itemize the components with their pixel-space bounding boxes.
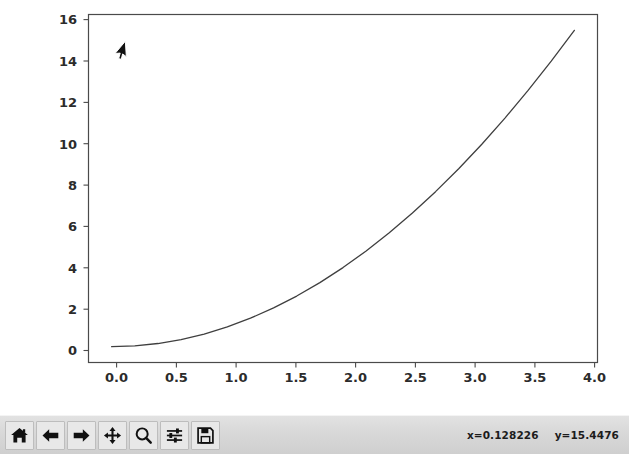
save-button[interactable] [191, 421, 220, 450]
floppy-disk-icon [196, 426, 215, 445]
home-icon [10, 426, 29, 445]
y-tick-label: 12 [59, 95, 77, 110]
y-tick-label: 6 [68, 219, 77, 234]
coordinate-x-value: x=0.128226 [467, 429, 539, 441]
x-tick-label: 1.0 [225, 370, 248, 385]
y-tick-label: 4 [68, 261, 77, 276]
y-tick-label: 8 [68, 178, 77, 193]
y-tick-label: 2 [68, 302, 77, 317]
y-tick-label: 0 [68, 343, 77, 358]
y-axis-ticks [84, 20, 89, 351]
coordinate-y-value: y=15.4476 [555, 429, 619, 441]
back-button[interactable] [36, 421, 65, 450]
x-tick-label: 2.0 [344, 370, 367, 385]
x-tick-label: 1.5 [284, 370, 307, 385]
y-tick-label: 10 [59, 137, 77, 152]
x-tick-label: 3.0 [464, 370, 487, 385]
figure-canvas[interactable]: 0.0 0.5 1.0 1.5 2.0 2.5 3.0 3.5 4.0 0 2 [0, 0, 629, 412]
y-tick-labels: 0 2 4 6 8 10 12 14 16 [59, 12, 77, 358]
pan-button[interactable] [98, 421, 127, 450]
x-tick-label: 3.5 [523, 370, 546, 385]
x-tick-label: 0.5 [165, 370, 188, 385]
coordinate-readout: x=0.128226y=15.4476 [452, 417, 629, 453]
x-tick-label: 2.5 [404, 370, 427, 385]
arrow-left-icon [41, 426, 60, 445]
sliders-icon [165, 426, 184, 445]
arrow-right-icon [72, 426, 91, 445]
x-axis-ticks [117, 363, 595, 368]
x-tick-label: 4.0 [583, 370, 606, 385]
x-tick-label: 0.0 [105, 370, 128, 385]
toolbar-button-group [0, 419, 221, 451]
move-arrows-icon [103, 426, 122, 445]
magnifier-icon [134, 426, 153, 445]
y-tick-label: 16 [59, 12, 77, 27]
x-tick-labels: 0.0 0.5 1.0 1.5 2.0 2.5 3.0 3.5 4.0 [105, 370, 606, 385]
y-tick-label: 14 [59, 54, 77, 69]
axes-spine-box [89, 15, 598, 363]
subplots-button[interactable] [160, 421, 189, 450]
forward-button[interactable] [67, 421, 96, 450]
navigation-toolbar: x=0.128226y=15.4476 [0, 415, 629, 454]
home-button[interactable] [5, 421, 34, 450]
zoom-button[interactable] [129, 421, 158, 450]
plot-area[interactable]: 0.0 0.5 1.0 1.5 2.0 2.5 3.0 3.5 4.0 0 2 [0, 0, 629, 412]
